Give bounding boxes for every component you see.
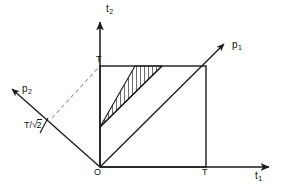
tick-label-p2-T-over-sqrt2: T/√2 — [24, 120, 42, 130]
origin-label: O — [94, 168, 101, 177]
axis-label-t2-subscript: 2 — [109, 8, 113, 15]
geometry-diagram — [0, 0, 287, 189]
axis-label-p1: p1 — [232, 40, 242, 51]
axis-label-t1-subscript: 1 — [258, 175, 262, 182]
axis-label-t2: t2 — [106, 4, 113, 15]
tick-label-t2-T: T — [96, 55, 102, 64]
tick-label-t1-T: T — [202, 168, 208, 177]
axis-label-p2: p2 — [22, 84, 32, 95]
dashed-projection-line — [52, 67, 99, 118]
axis-label-p2-subscript: 2 — [28, 88, 32, 95]
axis-label-t1: t1 — [255, 171, 262, 182]
radicand: 2 — [37, 119, 42, 130]
axis-label-p1-subscript: 1 — [238, 44, 242, 51]
figure-container: t2 t1 p1 p2 T T O T/√2 — [0, 0, 287, 189]
